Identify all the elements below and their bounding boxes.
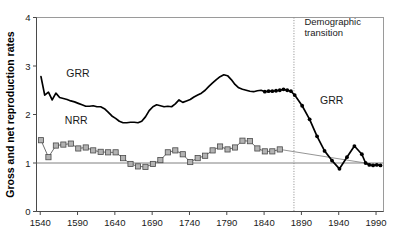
nrr-marker [270, 149, 275, 154]
nrr-marker [53, 143, 58, 148]
nrr-marker [98, 149, 103, 154]
reference-lines [37, 18, 384, 212]
grr-label-late-annotation: GRR [320, 94, 344, 106]
x-tick-label: 1740 [179, 217, 200, 228]
y-tick-label: 2 [25, 109, 30, 120]
nrr-marker [113, 150, 118, 155]
grr-marker [263, 90, 267, 94]
plot-area-border [37, 18, 384, 212]
y-tick-label: 3 [25, 61, 30, 72]
nrr-marker [61, 142, 66, 147]
grr-marker [379, 164, 383, 168]
x-tick-label: 1540 [30, 217, 51, 228]
grr-marker [375, 163, 379, 167]
plot-frame [37, 18, 384, 212]
nrr-marker [46, 155, 51, 160]
nrr-marker [262, 149, 267, 154]
data-series [38, 75, 382, 171]
chart-text-labels: Gross and net reproduction ratesGRRNRRGR… [4, 16, 361, 198]
grr-marker [360, 152, 364, 156]
grr-marker [282, 87, 286, 91]
nrr-marker [210, 148, 215, 153]
nrr-marker [143, 164, 148, 169]
nrr-marker [195, 156, 200, 161]
nrr-marker [165, 150, 170, 155]
nrr-marker [128, 161, 133, 166]
nrr-marker [83, 145, 88, 150]
y-tick-label: 0 [25, 206, 30, 217]
grr-marker [308, 117, 312, 121]
nrr-marker [150, 161, 155, 166]
grr-marker [270, 89, 274, 93]
nrr-marker [255, 146, 260, 151]
grr-marker [274, 89, 278, 93]
grr-marker [345, 155, 349, 159]
nrr-marker [158, 157, 163, 162]
nrr-marker [38, 138, 43, 143]
grr-marker [323, 149, 327, 153]
nrr-marker [91, 148, 96, 153]
x-tick-label: 1940 [328, 217, 349, 228]
nrr-marker [232, 145, 237, 150]
nrr-marker [180, 152, 185, 157]
nrr-marker [106, 150, 111, 155]
grr-marker [352, 144, 356, 148]
grr-marker [330, 159, 334, 163]
demographic-transition-label: Demographictransition [304, 16, 361, 38]
nrr-marker [173, 148, 178, 153]
x-tick-label: 1890 [291, 217, 312, 228]
x-tick-label: 1840 [254, 217, 275, 228]
grr-marker [267, 89, 271, 93]
grr-label-early-annotation: GRR [66, 67, 90, 79]
nrr-marker [68, 141, 73, 146]
x-tick-label: 1790 [216, 217, 237, 228]
x-tick-label: 1690 [142, 217, 163, 228]
grr-marker [371, 164, 375, 168]
grr-marker [364, 161, 368, 165]
grr-marker [285, 88, 289, 92]
x-tick-label: 1590 [67, 217, 88, 228]
x-tick-label: 1640 [104, 217, 125, 228]
nrr-marker [135, 164, 140, 169]
nrr-marker [225, 147, 230, 152]
grr-marker [367, 163, 371, 167]
figure-container: 0123415401590164016901740179018401890194… [0, 0, 395, 249]
grr-marker [278, 88, 282, 92]
nrr-marker [240, 138, 245, 143]
nrr-marker [120, 156, 125, 161]
nrr-marker [247, 139, 252, 144]
nrr-marker [217, 144, 222, 149]
grr-line [41, 75, 381, 169]
nrr-marker [203, 153, 208, 158]
nrr-label-early-annotation: NRR [65, 114, 88, 126]
x-tick-label: 1990 [365, 217, 386, 228]
grr-marker [338, 167, 342, 171]
grr-marker [293, 93, 297, 97]
y-tick-label: 1 [25, 158, 30, 169]
y-axis-title: Gross and net reproduction rates [4, 31, 16, 197]
axes-lines [37, 18, 384, 212]
nrr-marker [76, 146, 81, 151]
nrr-marker [188, 159, 193, 164]
grr-marker [289, 89, 293, 93]
reproduction-rates-chart: 0123415401590164016901740179018401890194… [0, 0, 395, 249]
y-tick-label: 4 [25, 12, 30, 23]
grr-marker [300, 104, 304, 108]
nrr-marker [277, 147, 282, 152]
grr-marker [315, 134, 319, 138]
